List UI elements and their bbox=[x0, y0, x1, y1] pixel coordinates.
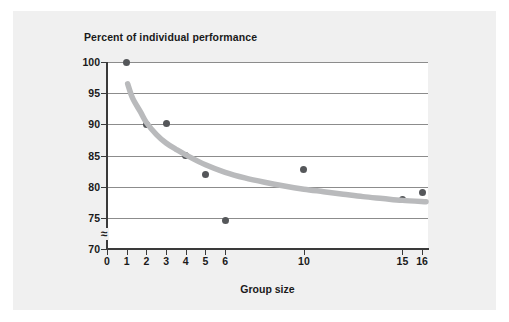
y-axis-tick-label: 85 bbox=[88, 151, 100, 161]
data-point bbox=[202, 171, 209, 178]
y-axis-tick-label: 75 bbox=[88, 213, 100, 223]
gridline bbox=[107, 62, 428, 63]
gridline bbox=[107, 156, 428, 157]
gridline bbox=[107, 93, 428, 94]
x-axis-tick-mark bbox=[166, 250, 167, 255]
x-axis-tick-mark bbox=[127, 250, 128, 255]
x-axis-tick-label: 4 bbox=[176, 256, 196, 267]
y-axis-break-icon: ≈ bbox=[100, 228, 109, 240]
x-axis-tick-label: 6 bbox=[215, 256, 235, 267]
y-axis-tick-mark bbox=[101, 124, 107, 125]
y-axis-tick-mark bbox=[101, 62, 107, 63]
gridline bbox=[107, 218, 428, 219]
data-point bbox=[143, 121, 150, 128]
x-axis-tick-mark bbox=[107, 250, 108, 255]
x-axis-tick-mark bbox=[205, 250, 206, 255]
x-axis-tick-label: 3 bbox=[156, 256, 176, 267]
data-point bbox=[399, 196, 406, 203]
y-axis-tick-label: 90 bbox=[88, 119, 100, 129]
x-axis-tick-label: 16 bbox=[412, 256, 432, 267]
x-axis-tick-label: 10 bbox=[294, 256, 314, 267]
x-axis-tick-mark bbox=[225, 250, 226, 255]
y-axis-tick-labels: 707580859095100 bbox=[66, 0, 100, 322]
y-axis-tick-mark bbox=[101, 218, 107, 219]
data-point bbox=[300, 166, 307, 173]
plot-area bbox=[107, 62, 428, 249]
y-axis-tick-label: 70 bbox=[88, 244, 100, 254]
x-axis-tick-mark bbox=[402, 250, 403, 255]
x-axis-tick-label: 5 bbox=[195, 256, 215, 267]
data-point bbox=[222, 217, 229, 224]
data-point bbox=[182, 152, 189, 159]
y-axis-tick-label: 100 bbox=[82, 57, 100, 67]
y-axis-tick-mark bbox=[101, 93, 107, 94]
chart-title: Percent of individual performance bbox=[84, 31, 257, 43]
y-axis-tick-label: 95 bbox=[88, 88, 100, 98]
x-axis-tick-mark bbox=[186, 250, 187, 255]
y-axis-tick-mark bbox=[101, 156, 107, 157]
y-axis-tick-label: 80 bbox=[88, 182, 100, 192]
x-axis-tick-mark bbox=[146, 250, 147, 255]
x-axis-tick-label: 15 bbox=[392, 256, 412, 267]
y-axis-tick-mark bbox=[101, 187, 107, 188]
gridline bbox=[107, 124, 428, 125]
data-point bbox=[419, 189, 426, 196]
x-axis-title: Group size bbox=[107, 283, 428, 295]
data-point bbox=[123, 59, 130, 66]
x-axis-tick-label: 1 bbox=[117, 256, 137, 267]
chart-figure: Percent of individual performance 707580… bbox=[0, 0, 509, 322]
x-axis-tick-label: 2 bbox=[136, 256, 156, 267]
x-axis-line bbox=[106, 248, 429, 250]
data-point bbox=[163, 120, 170, 127]
x-axis-tick-mark bbox=[304, 250, 305, 255]
x-axis-tick-label: 0 bbox=[97, 256, 117, 267]
x-axis-tick-mark bbox=[422, 250, 423, 255]
gridline bbox=[107, 187, 428, 188]
